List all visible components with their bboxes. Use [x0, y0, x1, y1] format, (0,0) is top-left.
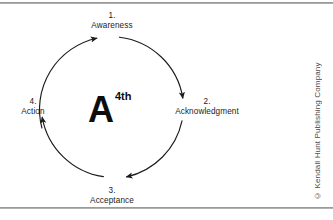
node-awareness-number: 1.: [72, 11, 152, 21]
center-ordinal-suffix: 4th: [115, 90, 132, 102]
figure-container: 1. Awareness 2. Acknowledgment 3. Accept…: [0, 0, 333, 220]
node-acceptance: 3. Acceptance: [72, 186, 152, 205]
node-acknowledgment-label: Acknowledgment: [158, 107, 256, 117]
node-awareness: 1. Awareness: [72, 11, 152, 30]
node-acceptance-number: 3.: [72, 186, 152, 196]
center-mark: A 4th: [88, 88, 154, 134]
cycle-diagram: 1. Awareness 2. Acknowledgment 3. Accept…: [0, 4, 290, 207]
node-awareness-label: Awareness: [72, 21, 152, 31]
bottom-divider-rule: [0, 207, 333, 209]
node-acceptance-label: Acceptance: [72, 196, 152, 206]
node-action-number: 4.: [6, 97, 60, 107]
node-acknowledgment-number: 2.: [158, 97, 256, 107]
node-action-label: Action: [6, 107, 60, 117]
node-action: 4. Action: [6, 97, 60, 116]
center-letter: A: [88, 88, 114, 132]
node-acknowledgment: 2. Acknowledgment: [158, 97, 256, 116]
copyright-notice: © Kendall Hunt Publishing Company: [313, 58, 329, 204]
